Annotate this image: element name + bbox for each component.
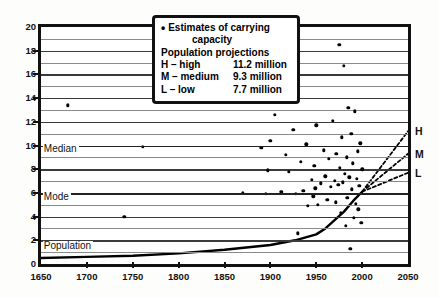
x-tick-mark-1800 (178, 262, 180, 268)
legend-estimates-text: Estimates of carrying capacity (168, 22, 270, 46)
y-tick-label-18: 18 (0, 46, 36, 56)
x-tick-mark-1750 (132, 262, 134, 268)
x-tick-label-1900: 1900 (260, 272, 281, 282)
x-tick-label-1700: 1700 (76, 272, 97, 282)
legend-estimates-line1: Estimates of carrying (168, 22, 270, 33)
x-tick-mark-2000 (361, 262, 363, 268)
gridline-y-11 (41, 134, 408, 135)
mode-label: Mode (43, 192, 71, 203)
legend-value-medium: 9.3 million (233, 71, 282, 84)
legend-box: • Estimates of carrying capacity Populat… (152, 15, 300, 104)
x-tick-label-1850: 1850 (214, 272, 235, 282)
y-tick-label-12: 12 (0, 117, 36, 127)
legend-estimates-line2: capacity (168, 34, 270, 46)
x-tick-label-2000: 2000 (352, 272, 373, 282)
series-m-medium-projection (362, 154, 408, 192)
y-tick-label-8: 8 (0, 164, 36, 174)
y-tick-label-14: 14 (0, 93, 36, 103)
x-tick-label-1950: 1950 (306, 272, 327, 282)
legend-row-high: H – high 11.2 million (161, 59, 292, 72)
gridline-y-12 (41, 122, 408, 123)
legend-row-low: L – low 7.7 million (161, 84, 292, 97)
y-tick-label-4: 4 (0, 212, 36, 222)
legend-value-low: 7.7 million (233, 84, 282, 97)
x-tick-label-1800: 1800 (168, 272, 189, 282)
median-label: Median (43, 144, 79, 155)
y-tick-label-16: 16 (0, 69, 36, 79)
gridline-y-7 (41, 181, 408, 182)
carrying-capacity-chart: 02468101214161820 1650170017501800185019… (0, 0, 439, 298)
x-tick-mark-1700 (86, 262, 88, 268)
gridline-y-3 (41, 228, 408, 229)
gridline-y-1 (41, 252, 408, 253)
x-tick-label-2050: 2050 (397, 272, 418, 282)
legend-bullet-icon: • (161, 22, 165, 35)
projection-label-high: H (415, 126, 423, 137)
reference-line-mode (41, 193, 408, 195)
y-tick-label-2: 2 (0, 235, 36, 245)
x-tick-mark-1900 (269, 262, 271, 268)
legend-key-high: H – high (161, 59, 233, 72)
legend-key-medium: M – medium (161, 71, 233, 84)
y-tick-label-6: 6 (0, 188, 36, 198)
y-tick-label-10: 10 (0, 141, 36, 151)
projection-label-low: L (415, 168, 421, 179)
gridline-y-9 (41, 157, 408, 158)
gridline-y-5 (41, 205, 408, 206)
gridline-y-8 (41, 169, 408, 170)
reference-line-median (41, 146, 408, 148)
legend-row-medium: M – medium 9.3 million (161, 71, 292, 84)
x-tick-label-1650: 1650 (30, 272, 51, 282)
x-tick-mark-1850 (224, 262, 226, 268)
y-tick-label-0: 0 (0, 259, 36, 269)
gridline-y-2 (41, 240, 408, 241)
legend-entry-estimates: • Estimates of carrying capacity (161, 22, 292, 46)
x-tick-label-1750: 1750 (122, 272, 143, 282)
legend-value-high: 11.2 million (233, 59, 287, 72)
legend-projections-title: Population projections (161, 47, 292, 59)
y-tick-label-20: 20 (0, 22, 36, 32)
legend-key-low: L – low (161, 84, 233, 97)
population-label: Population (43, 241, 93, 252)
x-tick-mark-1950 (315, 262, 317, 268)
projection-label-medium: M (415, 149, 424, 160)
